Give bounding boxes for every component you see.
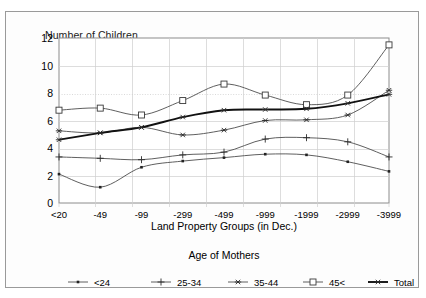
plot-background (59, 38, 389, 203)
legend-item-45[interactable]: 45< (303, 277, 346, 288)
x-tick-label: -3999 (377, 209, 401, 220)
y-tick-label: 8 (47, 87, 53, 99)
chart-frame: Number of Children (5, 11, 419, 288)
x-tick-label: <20 (51, 209, 67, 220)
y-tick-labels: 024681012 (41, 32, 53, 209)
x-axis-title: Land Property Groups (in Dec.) (151, 220, 297, 232)
data-point-marker (181, 160, 184, 163)
x-tick-label: -49 (93, 209, 107, 220)
data-point-marker (56, 107, 62, 113)
data-point-marker (388, 170, 391, 173)
legend-label: Total (394, 277, 414, 288)
y-tick-label: 2 (47, 170, 53, 182)
data-point-marker (310, 279, 316, 285)
data-point-marker (346, 160, 349, 163)
y-tick-label: 0 (47, 197, 53, 209)
data-point-marker (180, 98, 186, 104)
legend-item-2534[interactable]: 25-34 (151, 277, 201, 288)
data-point-marker (223, 156, 226, 159)
data-point-marker (386, 42, 392, 48)
data-point-marker (58, 173, 61, 176)
data-point-marker (264, 153, 267, 156)
legend-item-24[interactable]: <24 (68, 277, 110, 288)
legend-label: <24 (94, 277, 110, 288)
legend-label: 35-44 (254, 277, 278, 288)
y-tick-label: 12 (41, 32, 53, 44)
legend: <2425-3435-4445<Total (68, 277, 414, 288)
x-tick-label: -999 (256, 209, 275, 220)
data-point-marker (140, 166, 143, 169)
axis-ticks (59, 203, 389, 207)
data-point-marker (221, 81, 227, 87)
x-tick-label: -1999 (294, 209, 318, 220)
data-point-marker (345, 92, 351, 98)
data-point-marker (77, 281, 80, 284)
legend-label: 25-34 (177, 277, 201, 288)
data-point-marker (97, 105, 103, 111)
legend-label: 45< (329, 277, 346, 288)
y-tick-label: 4 (47, 142, 53, 154)
x-tick-label: -99 (135, 209, 149, 220)
x-tick-label: -2999 (336, 209, 360, 220)
data-point-marker (139, 112, 145, 118)
data-point-marker (262, 92, 268, 98)
x-tick-labels: <20-49-99-299-499-999-1999-2999-3999 (51, 209, 401, 220)
legend-item-Total[interactable]: Total (368, 277, 414, 288)
plot-area (56, 38, 393, 207)
legend-item-3544[interactable]: 35-44 (228, 277, 278, 288)
x-tick-label: -499 (214, 209, 233, 220)
line-chart-svg: 024681012 <20-49-99-299-499-999-1999-299… (6, 12, 420, 289)
data-point-marker (305, 154, 308, 157)
x-tick-label: -299 (173, 209, 192, 220)
y-tick-label: 6 (47, 115, 53, 127)
y-tick-label: 10 (41, 60, 53, 72)
data-point-marker (99, 186, 102, 189)
legend-title: Age of Mothers (188, 249, 259, 261)
